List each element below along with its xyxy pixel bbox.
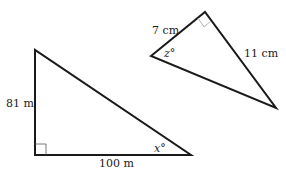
label-100m: 100 m [99,157,134,170]
right-angle-marker [35,144,46,155]
label-angle-z: z° [163,47,175,60]
label-7cm: 7 cm [152,24,180,37]
left-triangle [35,50,191,155]
label-81m: 81 m [6,97,34,110]
right-angle-marker [198,18,211,27]
triangles-diagram: 81 m 100 m x° 7 cm 11 cm z° [0,0,286,172]
label-angle-x: x° [154,142,166,155]
label-11cm: 11 cm [244,47,279,60]
